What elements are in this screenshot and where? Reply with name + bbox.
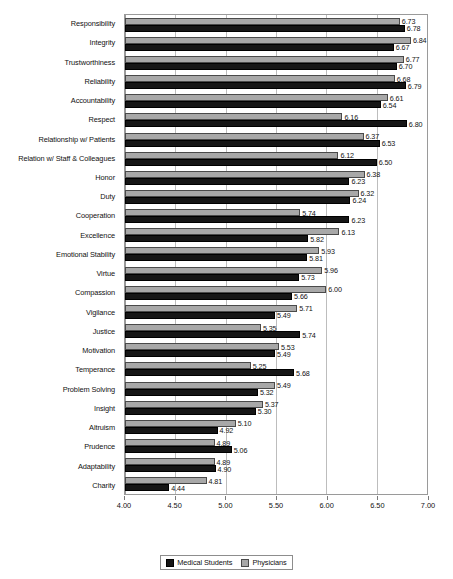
bar-physicians[interactable] [125,190,359,197]
x-tick [124,496,125,500]
bar-medical-students[interactable] [125,446,232,453]
category-axis: ResponsibilityIntegrityTrustworthinessRe… [0,14,120,495]
bar-slot: 5.10 [125,420,427,427]
bar-slot: 6.80 [125,120,427,127]
bar-value-label: 6.24 [350,196,366,205]
legend-label: Physicians [252,558,286,567]
bar-medical-students[interactable] [125,101,381,108]
bar-value-label: 6.78 [405,24,421,33]
category-label: Reliability [0,72,120,91]
bar-slot: 5.74 [125,209,427,216]
bar-physicians[interactable] [125,382,275,389]
bar-value-label: 5.73 [299,273,315,282]
bar-slot: 6.68 [125,75,427,82]
bar-physicians[interactable] [125,75,395,82]
bar-value-label: 5.06 [232,445,248,454]
bar-physicians[interactable] [125,152,338,159]
bar-group: 5.495.32 [125,379,427,398]
bar-physicians[interactable] [125,343,279,350]
bar-medical-students[interactable] [125,312,275,319]
bar-physicians[interactable] [125,305,297,312]
bar-value-label: 6.80 [407,119,423,128]
bar-value-label: 4.44 [169,483,185,492]
bar-slot: 6.78 [125,25,427,32]
category-label: Adaptability [0,456,120,475]
category-label: Respect [0,110,120,129]
bar-slot: 5.73 [125,274,427,281]
bar-medical-students[interactable] [125,350,275,357]
bar-medical-students[interactable] [125,159,377,166]
bar-physicians[interactable] [125,477,207,484]
bar-physicians[interactable] [125,133,364,140]
plot-area: 6.736.786.846.676.776.706.686.796.616.54… [124,14,428,495]
bar-value-label: 4.92 [218,426,234,435]
bar-physicians[interactable] [125,94,388,101]
bar-physicians[interactable] [125,18,400,25]
bar-medical-students[interactable] [125,120,407,127]
bar-physicians[interactable] [125,37,411,44]
bar-physicians[interactable] [125,113,342,120]
bar-physicians[interactable] [125,362,251,369]
category-label: Excellence [0,226,120,245]
bar-medical-students[interactable] [125,254,307,261]
bar-value-label: 5.82 [308,234,324,243]
bar-medical-students[interactable] [125,331,300,338]
bar-medical-students[interactable] [125,484,169,491]
legend-item[interactable]: Medical Students [166,558,232,567]
category-label: Charity [0,476,120,495]
bar-medical-students[interactable] [125,82,406,89]
bar-medical-students[interactable] [125,408,256,415]
bar-group: 5.746.23 [125,207,427,226]
category-label: Accountability [0,91,120,110]
category-label: Virtue [0,264,120,283]
legend: Medical StudentsPhysicians [0,555,453,570]
bar-medical-students[interactable] [125,293,292,300]
bar-group: 6.166.80 [125,111,427,130]
bar-group: 5.715.49 [125,302,427,321]
bar-medical-students[interactable] [125,178,349,185]
bar-chart: ResponsibilityIntegrityTrustworthinessRe… [0,0,453,579]
bar-slot: 6.50 [125,159,427,166]
bar-group: 5.355.74 [125,322,427,341]
bar-physicians[interactable] [125,401,263,408]
bar-slot: 6.53 [125,140,427,147]
bar-medical-students[interactable] [125,465,216,472]
bar-slot: 5.32 [125,389,427,396]
bar-medical-students[interactable] [125,427,218,434]
bar-physicians[interactable] [125,324,261,331]
bar-physicians[interactable] [125,209,300,216]
bar-slot: 5.93 [125,247,427,254]
bar-value-label: 5.68 [294,368,310,377]
legend-item[interactable]: Physicians [241,558,286,567]
bar-medical-students[interactable] [125,197,350,204]
bar-physicians[interactable] [125,439,215,446]
bar-medical-students[interactable] [125,216,349,223]
x-tick-label: 7.00 [421,501,435,510]
bar-physicians[interactable] [125,56,404,63]
bar-physicians[interactable] [125,267,322,274]
bar-slot: 5.66 [125,293,427,300]
bar-value-label: 6.53 [380,139,396,148]
bar-physicians[interactable] [125,247,319,254]
bar-slot: 5.96 [125,267,427,274]
bar-medical-students[interactable] [125,44,394,51]
bar-group: 6.326.24 [125,187,427,206]
bar-physicians[interactable] [125,458,215,465]
bar-group: 5.375.30 [125,398,427,417]
bar-medical-students[interactable] [125,369,294,376]
bar-medical-students[interactable] [125,63,397,70]
bar-medical-students[interactable] [125,389,258,396]
bar-medical-students[interactable] [125,25,405,32]
category-label: Insight [0,399,120,418]
x-tick [327,496,328,500]
bar-medical-students[interactable] [125,140,380,147]
x-tick-label: 6.00 [319,501,333,510]
bar-medical-students[interactable] [125,235,308,242]
x-tick [225,496,226,500]
bar-medical-students[interactable] [125,274,299,281]
bar-physicians[interactable] [125,171,365,178]
bar-slot: 6.32 [125,190,427,197]
x-tick-label: 4.50 [167,501,181,510]
gray-square-icon [241,559,249,567]
bar-slot: 6.73 [125,18,427,25]
